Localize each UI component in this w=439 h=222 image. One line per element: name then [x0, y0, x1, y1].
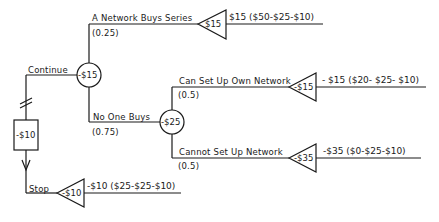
- branch-can-set-up-prob: (0.5): [178, 91, 199, 100]
- branch-can-set-up-label: Can Set Up Own Network: [179, 77, 291, 86]
- outcome-network-buys: $15 ($50-$25-$10): [229, 13, 314, 22]
- outcome-stop: -$10 ($25-$25-$10): [87, 182, 175, 191]
- branch-no-one-buys-prob: (0.75): [92, 128, 119, 137]
- terminal-network-buys-value: $15: [205, 20, 221, 29]
- outcome-can-set-up: - $15 ($20- $25- $10): [322, 76, 419, 85]
- terminal-can-set-up-value: -$15: [294, 83, 313, 92]
- terminal-stop-value: -$10: [62, 189, 81, 198]
- chance-node-1-value: -$15: [78, 71, 97, 80]
- stop-label: Stop: [29, 185, 49, 194]
- branch-network-buys-prob: (0.25): [92, 29, 119, 38]
- continue-label: Continue: [28, 66, 68, 75]
- branch-network-buys-label: A Network Buys Series: [92, 14, 192, 23]
- decision-box-value: -$10: [16, 131, 35, 140]
- terminal-cannot-set-up-value: -$35: [294, 154, 313, 163]
- chance-node-2-value: -$25: [161, 118, 180, 127]
- branch-cannot-set-up-label: Cannot Set Up Network: [179, 148, 283, 157]
- outcome-cannot-set-up: -$35 ($0-$25-$10): [323, 147, 406, 156]
- branch-no-one-buys-label: No One Buys: [93, 113, 150, 122]
- branch-cannot-set-up-prob: (0.5): [178, 162, 199, 171]
